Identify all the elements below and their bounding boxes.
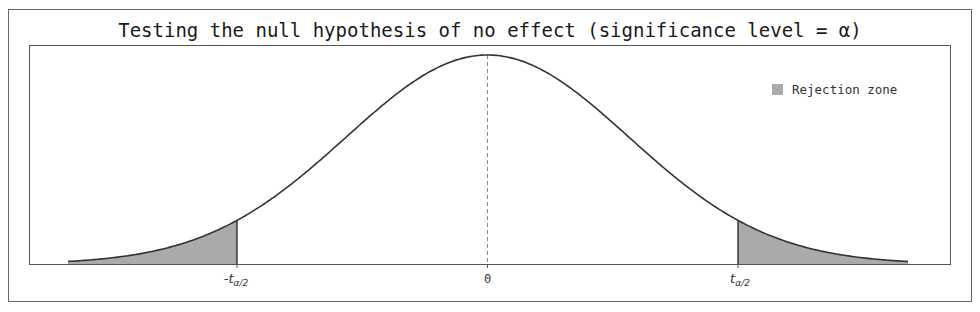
figure: Testing the null hypothesis of no effect… xyxy=(0,0,980,312)
legend-swatch xyxy=(772,84,783,95)
plot-area xyxy=(30,46,951,265)
chart-title: Testing the null hypothesis of no effect… xyxy=(118,19,862,41)
legend-label: Rejection zone xyxy=(792,82,897,97)
x-tick-label-center: 0 xyxy=(484,272,491,286)
